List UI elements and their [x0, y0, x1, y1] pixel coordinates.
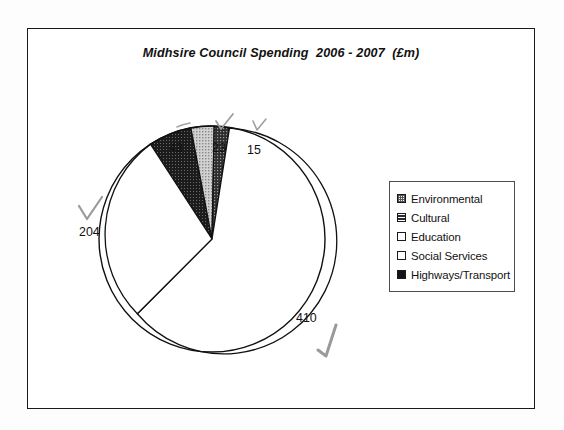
data-label-410: 410 [296, 311, 317, 325]
chart-frame: Midhsire Council Spending 2006 - 2007 (£… [27, 28, 535, 409]
data-label-204: 204 [79, 225, 100, 239]
data-label-43: 43 [169, 141, 183, 155]
legend-label-highways-transport: Highways/Transport [411, 269, 510, 281]
legend-item-cultural[interactable]: Cultural [397, 208, 509, 227]
legend-label-social-services: Social Services [411, 250, 487, 262]
legend-item-social-services[interactable]: Social Services [397, 246, 509, 265]
legend-label-education: Education [411, 231, 461, 243]
data-label-23: 23 [212, 141, 226, 155]
legend-label-cultural: Cultural [411, 212, 449, 224]
legend-item-environmental[interactable]: Environmental [397, 189, 509, 208]
data-label-15: 15 [247, 143, 261, 157]
legend-swatch-social-services-icon [397, 251, 406, 260]
scanned-page: Midhsire Council Spending 2006 - 2007 (£… [0, 0, 564, 430]
legend-item-highways-transport[interactable]: Highways/Transport [397, 265, 509, 284]
legend-swatch-highways-transport-icon [397, 270, 406, 279]
legend-label-environmental: Environmental [411, 193, 483, 205]
legend-item-education[interactable]: Education [397, 227, 509, 246]
legend-swatch-environmental-icon [397, 194, 406, 203]
legend-swatch-cultural-icon [397, 213, 406, 222]
legend: Environmental Cultural Education Social … [389, 181, 515, 292]
legend-swatch-education-icon [397, 232, 406, 241]
